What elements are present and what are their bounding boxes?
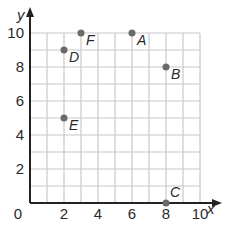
point-c: [163, 200, 170, 207]
y-axis-arrow-icon: [26, 7, 34, 17]
axes: [26, 7, 222, 207]
y-tick-label: 4: [16, 126, 24, 143]
point-a: [129, 30, 136, 37]
grid-lines: [30, 33, 200, 203]
point-d: [61, 47, 68, 54]
x-tick-label: 6: [128, 205, 136, 222]
y-tick-label: 8: [16, 58, 24, 75]
point-label-f: F: [86, 32, 96, 48]
y-axis-label: y: [16, 6, 26, 23]
y-tick-label: 6: [16, 92, 24, 109]
point-label-a: A: [136, 32, 146, 48]
point-f: [78, 30, 85, 37]
point-label-d: D: [69, 49, 79, 65]
origin-label: 0: [14, 205, 22, 222]
point-label-b: B: [171, 66, 180, 82]
x-tick-label: 10: [192, 205, 209, 222]
tick-labels: xy0246810246810: [7, 6, 215, 222]
point-label-c: C: [170, 184, 181, 200]
y-tick-label: 2: [16, 160, 24, 177]
x-tick-label: 4: [94, 205, 102, 222]
y-tick-label: 10: [7, 24, 24, 41]
x-tick-label: 2: [60, 205, 68, 222]
x-tick-label: 8: [162, 205, 170, 222]
point-label-e: E: [69, 117, 79, 133]
point-b: [163, 64, 170, 71]
point-e: [61, 115, 68, 122]
coordinate-grid-chart: xy0246810246810 ABCDEF: [0, 0, 233, 236]
